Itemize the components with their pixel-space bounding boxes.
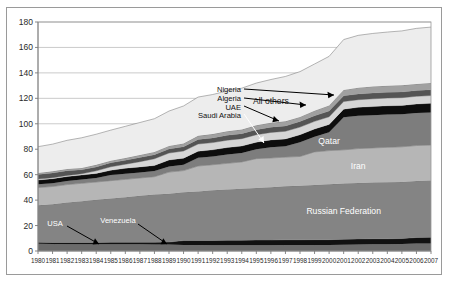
y-tick-label-140: 140 bbox=[19, 68, 33, 78]
y-tick-label-180: 180 bbox=[19, 17, 33, 27]
x-axis-ticks-group: 1980198119821983198419851986198719881989… bbox=[31, 251, 439, 264]
x-tick-label-1987: 1987 bbox=[133, 257, 148, 264]
y-tick-label-120: 120 bbox=[19, 93, 33, 103]
callout-label-usa: USA bbox=[47, 219, 64, 228]
y-axis-ticks-group: 020406080100120140160180 bbox=[19, 17, 38, 256]
x-tick-label-2000: 2000 bbox=[322, 257, 337, 264]
x-tick-label-1984: 1984 bbox=[89, 257, 104, 264]
callout-label-saudi-arabia: Saudi Arabia bbox=[198, 111, 242, 120]
area-series-group bbox=[38, 27, 431, 251]
x-tick-label-2006: 2006 bbox=[409, 257, 424, 264]
x-tick-label-1982: 1982 bbox=[60, 257, 75, 264]
y-tick-label-160: 160 bbox=[19, 42, 33, 52]
x-tick-label-1993: 1993 bbox=[220, 257, 235, 264]
y-tick-label-40: 40 bbox=[24, 195, 34, 205]
x-tick-label-1994: 1994 bbox=[235, 257, 250, 264]
x-tick-label-1991: 1991 bbox=[191, 257, 206, 264]
x-tick-label-2002: 2002 bbox=[351, 257, 366, 264]
y-tick-label-60: 60 bbox=[24, 170, 34, 180]
x-tick-label-1989: 1989 bbox=[162, 257, 177, 264]
x-tick-label-2007: 2007 bbox=[424, 257, 439, 264]
x-tick-label-1992: 1992 bbox=[206, 257, 221, 264]
x-tick-label-1997: 1997 bbox=[278, 257, 293, 264]
area-label-iran: Iran bbox=[351, 161, 366, 171]
x-tick-label-1996: 1996 bbox=[264, 257, 279, 264]
x-tick-label-2004: 2004 bbox=[380, 257, 395, 264]
area-label-qatar: Qatar bbox=[318, 136, 340, 146]
y-tick-label-0: 0 bbox=[28, 246, 33, 256]
x-tick-label-1999: 1999 bbox=[307, 257, 322, 264]
y-tick-label-80: 80 bbox=[24, 144, 34, 154]
x-tick-label-1995: 1995 bbox=[249, 257, 264, 264]
callout-label-nigeria: Nigeria bbox=[217, 85, 242, 94]
callout-label-venezuela: Venezuela bbox=[100, 216, 136, 225]
x-tick-label-1986: 1986 bbox=[118, 257, 133, 264]
y-tick-label-100: 100 bbox=[19, 119, 33, 129]
stacked-area-chart: 020406080100120140160180 198019811982198… bbox=[0, 0, 451, 286]
x-tick-label-1981: 1981 bbox=[45, 257, 60, 264]
x-tick-label-1985: 1985 bbox=[104, 257, 119, 264]
x-tick-label-2001: 2001 bbox=[337, 257, 352, 264]
x-tick-label-1983: 1983 bbox=[75, 257, 90, 264]
x-tick-label-2005: 2005 bbox=[395, 257, 410, 264]
x-tick-label-1980: 1980 bbox=[31, 257, 46, 264]
area-label-russian-federation: Russian Federation bbox=[306, 206, 381, 216]
y-tick-label-20: 20 bbox=[24, 221, 34, 231]
x-tick-label-1990: 1990 bbox=[176, 257, 191, 264]
x-tick-label-2003: 2003 bbox=[366, 257, 381, 264]
x-tick-label-1998: 1998 bbox=[293, 257, 308, 264]
x-tick-label-1988: 1988 bbox=[147, 257, 162, 264]
